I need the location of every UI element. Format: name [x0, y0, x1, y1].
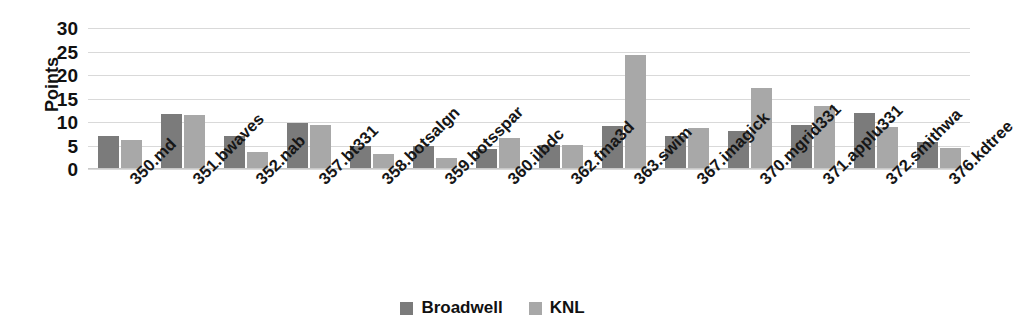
legend-label: KNL — [550, 298, 585, 318]
bar — [625, 55, 646, 169]
y-axis-tick-labels: 302520151050 — [30, 0, 78, 334]
y-tick-label: 30 — [30, 19, 78, 38]
legend-swatch-broadwell — [400, 302, 413, 315]
y-tick-label: 0 — [30, 160, 78, 179]
bar-group — [88, 28, 151, 169]
y-tick-label: 10 — [30, 113, 78, 132]
chart-legend: BroadwellKNL — [0, 298, 985, 318]
x-axis-tick-labels: 350.md351.bwaves352.nab357.bt331358.bots… — [88, 169, 970, 289]
legend-item[interactable]: KNL — [529, 298, 585, 318]
legend-item[interactable]: Broadwell — [400, 298, 502, 318]
y-tick-label: 20 — [30, 66, 78, 85]
y-tick-label: 15 — [30, 89, 78, 108]
legend-swatch-knl — [529, 302, 542, 315]
y-tick-label: 5 — [30, 136, 78, 155]
bar — [98, 136, 119, 169]
legend-label: Broadwell — [421, 298, 502, 318]
y-tick-label: 25 — [30, 42, 78, 61]
